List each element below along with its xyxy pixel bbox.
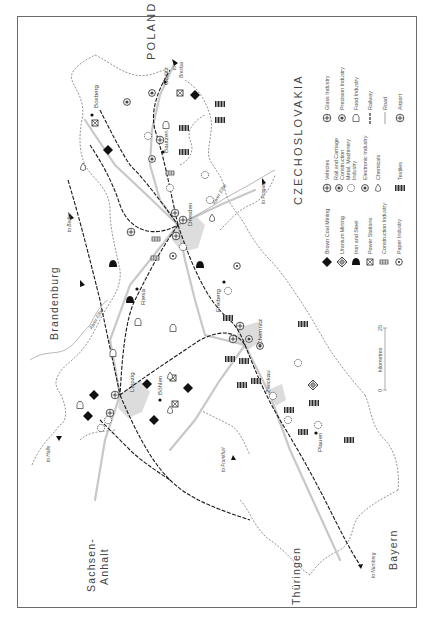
legend-uranium: Uranium Mining (339, 216, 345, 254)
label-plauen: Plauen (316, 432, 323, 452)
label-zwickau: Zwickau (264, 370, 271, 393)
electronic-icon (362, 185, 369, 192)
label-bautzen: Bautzen (162, 130, 169, 153)
label-thueringen: Thüringen (290, 547, 302, 605)
legend-brown-coal: Brown Coal Mining (324, 209, 330, 254)
label-leipzig: Leipzig (128, 372, 135, 392)
label-to-prague: to Prague (261, 183, 266, 204)
airport-icon (396, 114, 404, 122)
vehicles-icon (323, 184, 331, 192)
arrow-to-frankfurt (231, 455, 236, 460)
label-to-breslau-1: to (172, 66, 177, 70)
legend-glass: Glass Industry (324, 75, 330, 110)
railways (68, 70, 360, 565)
legend-construction: Construction Industry (381, 203, 387, 254)
legend-metal-machinery-2: Industry (351, 161, 357, 180)
label-gorlitz: Görlitz (162, 67, 169, 85)
label-bohlen: Böhlen (156, 375, 163, 395)
label-to-frankfurt: to Frankfurt (221, 447, 226, 472)
label-poland: POLAND (145, 2, 157, 60)
scale-zero: 0 (377, 389, 383, 392)
legend-food: Food Industry (353, 77, 359, 110)
legend: Brown Coal Mining Uranium Mining Iron an… (322, 67, 405, 267)
label-to-halle: to Halle (46, 445, 51, 462)
legend-railway: Railway (367, 91, 373, 110)
textiles-icon (395, 185, 405, 191)
legend-iron-steel: Iron and Steel (353, 220, 359, 254)
label-to-breslau-2: Breslau (179, 61, 184, 78)
label-to-berlin: to Berlin (67, 214, 72, 232)
legend-electronic: Electronic Industry (362, 135, 368, 180)
legend-road: Road (382, 97, 388, 110)
precision-icon (339, 115, 346, 122)
legend-paper: Paper Industry (396, 219, 402, 254)
label-freiberg: Freiberg (214, 288, 221, 312)
arrow-to-halle (56, 436, 62, 441)
legend-precision: Precision Industry (339, 67, 345, 110)
paper-icon (396, 259, 403, 266)
power-station-icon (367, 259, 373, 265)
label-dresden: Dresden (186, 202, 193, 226)
map-labels: Brandenburg Sachsen- Anhalt Thüringen Ba… (46, 2, 399, 605)
scale-max: 25 (377, 325, 383, 331)
label-sachsen: Sachsen- (85, 538, 97, 592)
rail-carriage-icon (336, 185, 343, 192)
arrow-to-berlin-2 (80, 280, 85, 287)
scale-unit: kilometres (377, 347, 383, 372)
legend-textiles: Textiles (397, 162, 403, 180)
iron-steel-icon (352, 258, 360, 265)
uranium-icon (337, 257, 347, 267)
borders (32, 55, 398, 575)
arrow-to-nurnberg (358, 564, 363, 569)
construction-icon (380, 260, 388, 264)
food-icon (353, 115, 359, 122)
legend-vehicles: Vehicles (324, 160, 330, 180)
label-anhalt: Anhalt (98, 548, 110, 585)
urban-areas (118, 215, 286, 418)
industry-map: Brandenburg Sachsen- Anhalt Thüringen Ba… (0, 0, 432, 621)
scale-bar: 0 kilometres 25 (377, 325, 387, 392)
label-bayern: Bayern (387, 530, 399, 570)
metal-machinery-icon (347, 184, 354, 191)
brown-coal-icon (322, 257, 332, 267)
glass-icon (323, 114, 331, 122)
legend-chemicals: Chemicals (375, 155, 381, 180)
chemicals-icon (375, 184, 380, 192)
label-czechoslovakia: CZECHOSLOVAKIA (292, 74, 304, 205)
label-brandenburg: Brandenburg (48, 266, 60, 340)
legend-power-stations: Power Stations (367, 217, 373, 254)
label-chemnitz: Chemnitz (256, 319, 263, 345)
label-boxberg: Boxberg (92, 84, 99, 108)
label-riesa: Riesa (139, 289, 146, 305)
legend-airport: Airport (397, 94, 403, 110)
label-to-nurnberg: to Nürnberg (371, 552, 376, 578)
